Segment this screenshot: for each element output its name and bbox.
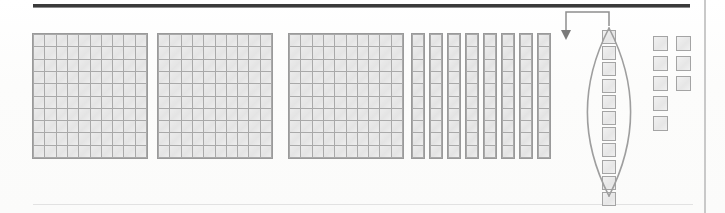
unit-cell bbox=[358, 133, 368, 144]
unit-cell bbox=[290, 133, 300, 144]
unit-cell bbox=[204, 97, 214, 108]
unit-cell bbox=[102, 60, 112, 71]
unit-cell bbox=[249, 146, 259, 157]
unit-cell bbox=[485, 84, 495, 95]
bottom-rule bbox=[33, 204, 693, 205]
unit-cell bbox=[347, 133, 357, 144]
unit-cell bbox=[216, 121, 226, 132]
unit-cell bbox=[313, 60, 323, 71]
unit-cell bbox=[91, 109, 101, 120]
unit-cell bbox=[45, 121, 55, 132]
unit-cell bbox=[249, 47, 259, 58]
unit-cell bbox=[358, 146, 368, 157]
unit-cell bbox=[413, 60, 423, 71]
unit-cell bbox=[301, 133, 311, 144]
unit-cell bbox=[324, 146, 334, 157]
unit-cell bbox=[503, 47, 513, 58]
unit-cell bbox=[45, 97, 55, 108]
regrouped-ones-cube bbox=[602, 127, 616, 141]
unit-cell bbox=[91, 97, 101, 108]
unit-cell bbox=[380, 35, 390, 46]
unit-cell bbox=[413, 146, 423, 157]
unit-cell bbox=[102, 47, 112, 58]
unit-cell bbox=[124, 121, 134, 132]
unit-cell bbox=[358, 84, 368, 95]
unit-cell bbox=[238, 146, 248, 157]
unit-cell bbox=[170, 109, 180, 120]
unit-cell bbox=[249, 60, 259, 71]
unit-cell bbox=[261, 60, 271, 71]
unit-cell bbox=[467, 84, 477, 95]
unit-cell bbox=[113, 109, 123, 120]
tens-rod bbox=[537, 33, 551, 159]
unit-cell bbox=[380, 109, 390, 120]
unit-cell bbox=[79, 121, 89, 132]
unit-cell bbox=[335, 72, 345, 83]
unit-cell bbox=[136, 47, 146, 58]
unit-cell bbox=[485, 97, 495, 108]
unit-cell bbox=[170, 47, 180, 58]
unit-cell bbox=[91, 35, 101, 46]
unit-cell bbox=[313, 109, 323, 120]
unit-cell bbox=[449, 72, 459, 83]
unit-cell bbox=[467, 60, 477, 71]
unit-cell bbox=[380, 146, 390, 157]
unit-cell bbox=[369, 146, 379, 157]
unit-cell bbox=[102, 72, 112, 83]
ones-cube bbox=[653, 56, 668, 71]
hundreds-flat-2 bbox=[157, 33, 273, 159]
tens-rod bbox=[465, 33, 479, 159]
unit-cell bbox=[431, 35, 441, 46]
unit-cell bbox=[290, 146, 300, 157]
unit-cell bbox=[261, 35, 271, 46]
unit-cell bbox=[503, 109, 513, 120]
unit-cell bbox=[539, 146, 549, 157]
unit-cell bbox=[392, 146, 402, 157]
unit-cell bbox=[193, 109, 203, 120]
unit-cell bbox=[347, 84, 357, 95]
unit-cell bbox=[431, 133, 441, 144]
ones-cube bbox=[653, 96, 668, 111]
unit-cell bbox=[290, 97, 300, 108]
unit-cell bbox=[159, 60, 169, 71]
unit-cell bbox=[113, 121, 123, 132]
unit-cell bbox=[249, 109, 259, 120]
unit-cell bbox=[238, 35, 248, 46]
tens-rod bbox=[411, 33, 425, 159]
unit-cell bbox=[301, 97, 311, 108]
right-rule bbox=[704, 0, 706, 213]
unit-cell bbox=[539, 133, 549, 144]
unit-cell bbox=[57, 109, 67, 120]
unit-cell bbox=[392, 47, 402, 58]
unit-cell bbox=[124, 133, 134, 144]
regrouped-ones-cube bbox=[602, 143, 616, 157]
unit-cell bbox=[249, 35, 259, 46]
regrouped-ones-cube bbox=[602, 46, 616, 60]
unit-cell bbox=[159, 121, 169, 132]
unit-cell bbox=[485, 146, 495, 157]
tens-rod bbox=[501, 33, 515, 159]
unit-cell bbox=[227, 72, 237, 83]
unit-cell bbox=[335, 133, 345, 144]
unit-cell bbox=[392, 72, 402, 83]
unit-cell bbox=[227, 84, 237, 95]
unit-cell bbox=[204, 121, 214, 132]
unit-cell bbox=[193, 133, 203, 144]
unit-cell bbox=[182, 146, 192, 157]
unit-cell bbox=[335, 121, 345, 132]
unit-cell bbox=[91, 60, 101, 71]
unit-cell bbox=[124, 84, 134, 95]
unit-cell bbox=[335, 97, 345, 108]
unit-cell bbox=[539, 72, 549, 83]
unit-cell bbox=[170, 97, 180, 108]
unit-cell bbox=[467, 146, 477, 157]
unit-cell bbox=[204, 47, 214, 58]
unit-cell bbox=[34, 121, 44, 132]
unit-cell bbox=[431, 60, 441, 71]
unit-cell bbox=[467, 72, 477, 83]
unit-cell bbox=[539, 47, 549, 58]
unit-cell bbox=[449, 84, 459, 95]
unit-cell bbox=[79, 109, 89, 120]
unit-cell bbox=[261, 133, 271, 144]
unit-cell bbox=[238, 133, 248, 144]
